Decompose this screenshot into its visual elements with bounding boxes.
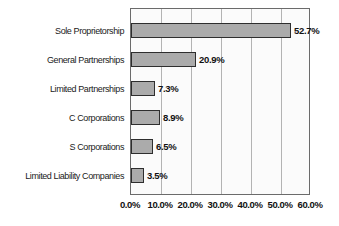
x-tick-label: 40.0% (233, 199, 267, 210)
bar-limited-liability-companies (131, 168, 144, 183)
value-label: 6.5% (156, 139, 176, 155)
value-label: 7.3% (158, 81, 178, 97)
x-tick-label: 60.0% (293, 199, 327, 210)
value-label: 3.5% (147, 168, 167, 184)
bar-s-corporations (131, 139, 153, 154)
category-label: S Corporations (0, 139, 124, 155)
x-tick-label: 10.0% (143, 199, 177, 210)
category-label: C Corporations (0, 110, 124, 126)
category-label: General Partnerships (0, 52, 124, 68)
value-label: 8.9% (163, 110, 183, 126)
category-label: Limited Partnerships (0, 81, 124, 97)
bar-limited-partnerships (131, 81, 155, 96)
x-tick-label: 30.0% (203, 199, 237, 210)
value-label: 20.9% (199, 52, 224, 68)
value-label: 52.7% (294, 23, 319, 39)
category-label: Sole Proprietorship (0, 23, 124, 39)
bar-general-partnerships (131, 52, 196, 67)
category-label: Limited Liability Companies (0, 168, 124, 184)
x-tick-label: 20.0% (173, 199, 207, 210)
bar-sole-proprietorship (131, 23, 291, 38)
bar-chart: Sole Proprietorship52.7%General Partners… (0, 0, 339, 226)
x-tick-label: 50.0% (263, 199, 297, 210)
x-tick-label: 0.0% (113, 199, 147, 210)
bar-c-corporations (131, 110, 160, 125)
